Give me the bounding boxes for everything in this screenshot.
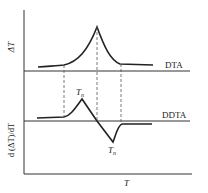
x-axis-label: T (124, 178, 130, 188)
tn-upper-label: Tn (76, 87, 84, 98)
y-bottom-label: d (ΔT)/dT (6, 122, 16, 157)
y-top-label: ΔT (6, 41, 16, 53)
tn-lower-label: Tn (108, 145, 116, 156)
dta-label: DTA (165, 60, 183, 70)
dta-curve (38, 27, 153, 67)
ddta-label: DDTA (162, 110, 187, 120)
dta-ddta-diagram: DTA DDTA T ΔT d (ΔT)/dT Tn Tn (0, 0, 208, 193)
